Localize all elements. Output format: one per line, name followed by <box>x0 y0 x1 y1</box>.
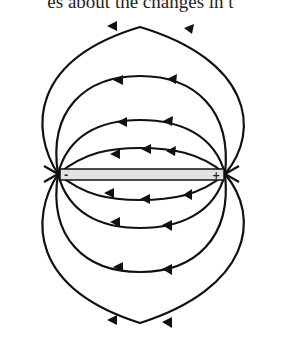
field-line-bottom-outer <box>42 174 243 323</box>
field-line-top-outer <box>42 27 243 174</box>
negative-sign: - <box>64 169 68 180</box>
positive-sign: + <box>212 170 220 181</box>
charged-rod <box>60 169 224 180</box>
dipole-field-diagram: - + <box>0 0 281 339</box>
